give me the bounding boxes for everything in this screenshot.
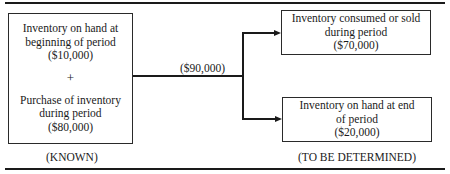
ending-inventory-amount: ($20,000): [334, 126, 379, 140]
split-connector: [242, 32, 244, 120]
beginning-inventory-group: Inventory on hand at beginning of period…: [23, 22, 119, 63]
lower-branch-line: [242, 118, 275, 120]
lower-arrow-icon: [275, 116, 282, 122]
ending-inventory-box: Inventory on hand at end of period ($20,…: [282, 97, 432, 142]
known-caption: (KNOWN): [46, 151, 98, 163]
upper-arrow-icon: [274, 30, 281, 36]
purchases-line-2: during period: [39, 107, 101, 121]
consumed-line-2: during period: [325, 26, 387, 40]
beginning-inventory-line-2: beginning of period: [25, 36, 116, 50]
upper-branch-line: [242, 32, 274, 34]
beginning-inventory-amount: ($10,000): [48, 49, 93, 63]
main-flow-line: [133, 75, 244, 77]
plus-operator: +: [67, 71, 74, 85]
consumed-or-sold-box: Inventory consumed or sold during period…: [281, 10, 431, 55]
consumed-amount: ($70,000): [333, 39, 378, 53]
known-inputs-box: Inventory on hand at beginning of period…: [8, 13, 133, 144]
bottom-rule: [5, 168, 445, 170]
to-be-determined-caption: (TO BE DETERMINED): [298, 151, 416, 163]
consumed-line-1: Inventory consumed or sold: [292, 12, 421, 26]
purchases-line-1: Purchase of inventory: [20, 94, 121, 108]
flow-amount-label: ($90,000): [180, 62, 225, 74]
ending-inventory-line-1: Inventory on hand at end: [300, 99, 415, 113]
purchases-group: Purchase of inventory during period ($80…: [20, 94, 121, 135]
top-rule: [5, 2, 445, 4]
purchases-amount: ($80,000): [48, 121, 93, 135]
ending-inventory-line-2: of period: [336, 113, 378, 127]
beginning-inventory-line-1: Inventory on hand at: [23, 22, 119, 36]
